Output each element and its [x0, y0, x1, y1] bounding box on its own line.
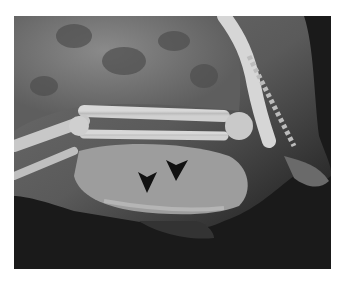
radiograph-image	[14, 16, 331, 269]
